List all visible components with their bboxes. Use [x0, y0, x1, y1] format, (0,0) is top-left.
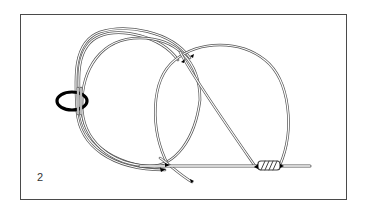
wrap-turns	[254, 161, 284, 170]
right-loop	[155, 45, 288, 165]
step-number: 2	[37, 171, 43, 183]
knot-diagram	[0, 0, 369, 213]
left-coil-loops	[76, 29, 200, 170]
diagonal-strand	[180, 52, 255, 166]
